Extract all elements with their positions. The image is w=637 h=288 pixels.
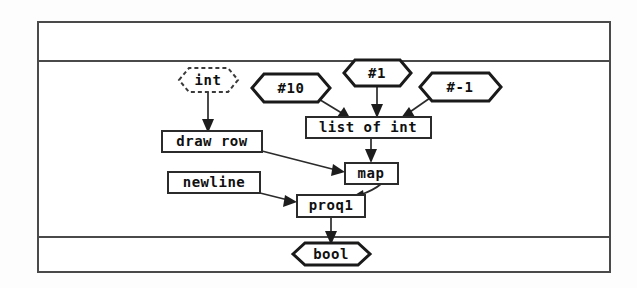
node-numneg1-label: #-1	[447, 79, 474, 95]
node-draw-row[interactable]: draw row	[162, 131, 262, 152]
node-map[interactable]: map	[345, 163, 398, 184]
node-num10[interactable]: #10	[252, 74, 330, 102]
node-newline-label: newline	[183, 174, 246, 190]
node-map-label: map	[358, 165, 385, 181]
dataflow-diagram: int #10 #1 #-1 list of int draw row	[0, 0, 637, 288]
node-bool-label: bool	[313, 246, 349, 262]
node-list-of-int-label: list of int	[319, 119, 417, 135]
node-num1[interactable]: #1	[344, 60, 411, 86]
node-int-label: int	[195, 72, 222, 88]
diagram-canvas: int #10 #1 #-1 list of int draw row	[0, 0, 637, 288]
frame	[38, 22, 610, 272]
node-bool[interactable]: bool	[293, 243, 370, 265]
node-list-of-int[interactable]: list of int	[306, 117, 431, 138]
node-int[interactable]: int	[179, 68, 238, 92]
node-newline[interactable]: newline	[168, 172, 260, 193]
node-proq1-label: proq1	[309, 197, 354, 213]
node-num1-label: #1	[368, 65, 386, 81]
node-numneg1[interactable]: #-1	[420, 73, 501, 101]
node-proq1[interactable]: proq1	[297, 195, 365, 217]
node-draw-row-label: draw row	[176, 133, 248, 149]
node-num10-label: #10	[278, 80, 305, 96]
